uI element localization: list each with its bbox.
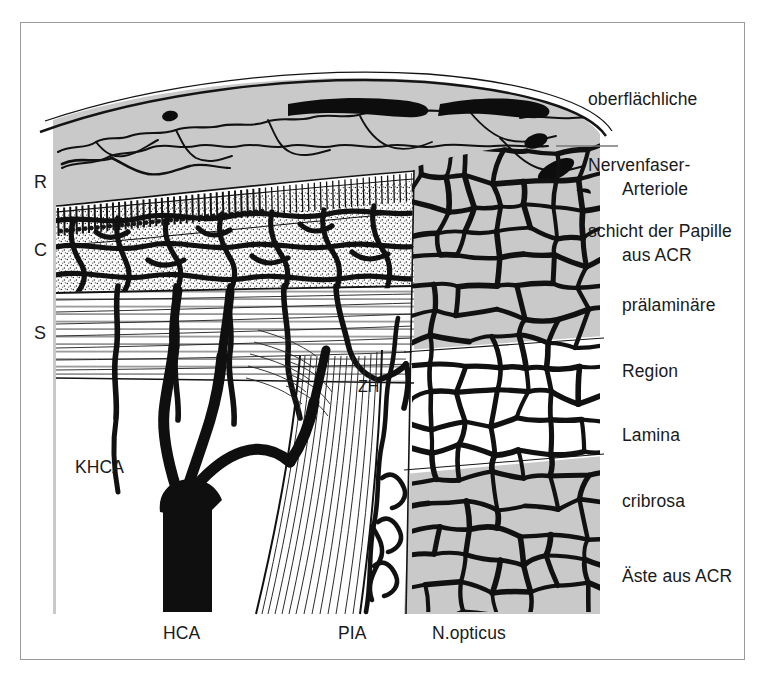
- label-pia: PIA: [338, 622, 367, 644]
- label-branches-acr: Äste aus ACR: [622, 521, 732, 631]
- anatomical-figure: oberflächliche Nervenfaser- schicht der …: [0, 0, 765, 682]
- label-zh: ZH: [358, 378, 379, 396]
- label-hca: HCA: [163, 622, 200, 644]
- label-choroid-c: C: [34, 240, 47, 261]
- label-khca: KHCA: [75, 456, 124, 478]
- label-retina-r: R: [34, 172, 47, 193]
- label-n-opticus: N.opticus: [432, 622, 506, 644]
- label-sclera-s: S: [34, 323, 46, 344]
